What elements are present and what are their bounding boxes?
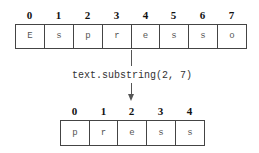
char-cell: r: [102, 24, 132, 49]
char-cell: r: [89, 120, 118, 146]
connector-line: [131, 50, 132, 66]
char-cell: p: [73, 24, 103, 49]
arrow-shaft: [131, 83, 132, 94]
index-label: 2: [73, 9, 102, 21]
arrow-down-icon: [128, 94, 134, 101]
index-label: 2: [117, 105, 146, 117]
substring-call-label: text.substring(2, 7): [72, 70, 192, 81]
char-cell: s: [188, 24, 218, 49]
char-cell: o: [217, 24, 247, 49]
index-label: 3: [102, 9, 131, 21]
char-cell: p: [60, 120, 90, 146]
char-cell: s: [44, 24, 74, 49]
index-label: 1: [44, 9, 73, 21]
index-label: 0: [15, 9, 44, 21]
char-cell: e: [117, 120, 147, 146]
char-cell: e: [131, 24, 160, 49]
index-label: 6: [188, 9, 217, 21]
index-label: 7: [217, 9, 246, 21]
index-label: 4: [175, 105, 204, 117]
char-cell: s: [175, 120, 205, 146]
index-label: 3: [146, 105, 175, 117]
index-label: 5: [159, 9, 188, 21]
index-label: 4: [131, 9, 160, 21]
char-cell: s: [159, 24, 189, 49]
char-cell: E: [15, 24, 45, 49]
index-label: 0: [60, 105, 89, 117]
char-cell: s: [146, 120, 176, 146]
index-label: 1: [89, 105, 118, 117]
